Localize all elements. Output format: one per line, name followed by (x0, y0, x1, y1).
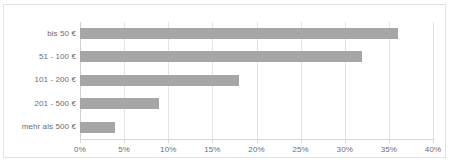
tickmark-30% (345, 139, 346, 143)
bar-row (80, 22, 433, 45)
tick-label-25%: 25% (286, 144, 316, 155)
tick-label-15%: 15% (197, 144, 227, 155)
gridline-40% (433, 22, 434, 139)
bar-4[interactable] (80, 122, 115, 133)
x-axis-tick-labels: 0%5%10%15%20%25%30%35%40% (4, 144, 454, 158)
tickmark-25% (301, 139, 302, 143)
bar-2[interactable] (80, 75, 239, 86)
y-axis-label-0: bis 50 € (6, 29, 76, 39)
tick-label-20%: 20% (242, 144, 272, 155)
bar-row (80, 92, 433, 115)
bar-1[interactable] (80, 51, 362, 62)
tick-label-30%: 30% (330, 144, 360, 155)
y-axis-label-3: 201 - 500 € (6, 99, 76, 109)
tickmark-40% (433, 139, 434, 143)
tickmark-20% (257, 139, 258, 143)
tickmark-5% (124, 139, 125, 143)
y-axis-label-1: 51 - 100 € (6, 52, 76, 62)
bar-row (80, 69, 433, 92)
tick-label-5%: 5% (109, 144, 139, 155)
plot-area (80, 22, 433, 139)
tickmark-35% (389, 139, 390, 143)
tickmark-10% (168, 139, 169, 143)
tick-label-10%: 10% (153, 144, 183, 155)
tick-label-40%: 40% (418, 144, 448, 155)
y-axis-label-4: mehr als 500 € (6, 122, 76, 132)
bar-row (80, 45, 433, 68)
tickmark-15% (212, 139, 213, 143)
bar-row (80, 116, 433, 139)
tick-label-35%: 35% (374, 144, 404, 155)
bar-0[interactable] (80, 28, 398, 39)
tickmark-0% (80, 139, 81, 143)
bar-3[interactable] (80, 98, 159, 109)
chart-frame: bis 50 € 51 - 100 € 101 - 200 € 201 - 50… (3, 4, 446, 158)
tick-label-0%: 0% (65, 144, 95, 155)
y-axis-category-labels: bis 50 € 51 - 100 € 101 - 200 € 201 - 50… (4, 22, 76, 139)
y-axis-label-2: 101 - 200 € (6, 75, 76, 85)
